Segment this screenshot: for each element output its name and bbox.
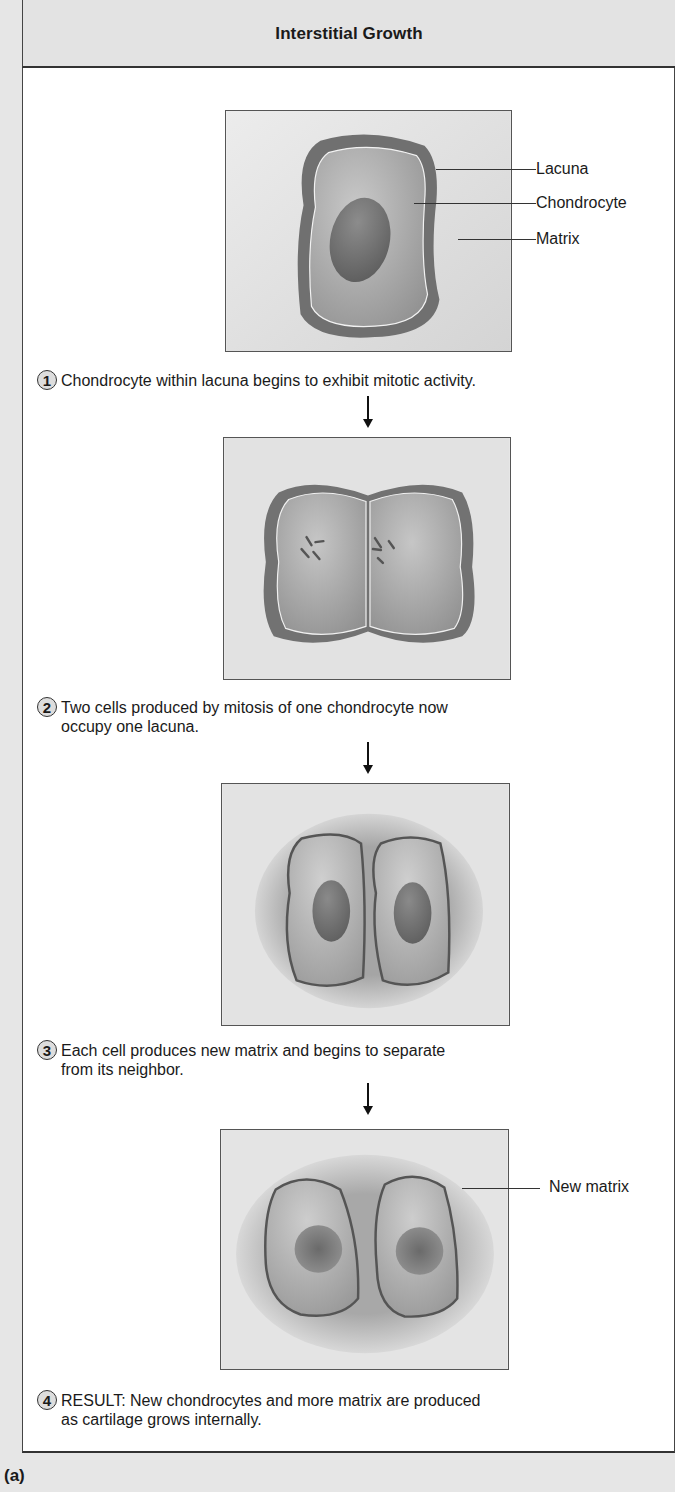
label-lacuna: Lacuna [536, 160, 589, 178]
stage-3-illustration [221, 783, 510, 1026]
label-matrix: Matrix [536, 230, 580, 248]
down-arrow-icon [367, 742, 369, 772]
stage-4-text-line-2: as cartilage grows internally. [61, 1410, 262, 1429]
new-chondrocytes-drawing [221, 1130, 508, 1369]
stage-2-text-line-1: Two cells produced by mitosis of one cho… [61, 698, 448, 717]
stage-3-text-line-1: Each cell produces new matrix and begins… [61, 1041, 445, 1060]
stage-1-text: Chondrocyte within lacuna begins to exhi… [61, 371, 476, 390]
down-arrow-icon [367, 1083, 369, 1113]
stage-1-illustration [225, 110, 512, 352]
stage-2-illustration [223, 437, 511, 680]
stage-4-illustration [220, 1129, 509, 1370]
stage-4-text-line-1: RESULT: New chondrocytes and more matrix… [61, 1391, 480, 1410]
label-chondrocyte: Chondrocyte [536, 194, 627, 212]
new-matrix-leader-line [462, 1188, 540, 1189]
label-new-matrix: New matrix [549, 1178, 629, 1196]
lacuna-leader-line [436, 169, 536, 170]
matrix-leader-line [458, 239, 536, 240]
chondrocyte-leader-line [414, 203, 536, 204]
step-number-badge: 2 [37, 697, 57, 717]
single-chondrocyte-drawing [226, 111, 511, 351]
panel-label: (a) [4, 1466, 25, 1486]
stage-2-text-line-2: occupy one lacuna. [61, 717, 199, 736]
step-number-badge: 3 [37, 1040, 57, 1060]
step-number-badge: 1 [37, 370, 57, 390]
separating-chondrocytes-drawing [222, 784, 509, 1025]
down-arrow-icon [367, 396, 369, 426]
step-number-badge: 4 [37, 1390, 57, 1410]
stage-3-text-line-2: from its neighbor. [61, 1060, 184, 1079]
figure-header: Interstitial Growth [22, 0, 675, 68]
figure-title: Interstitial Growth [23, 24, 675, 44]
dividing-chondrocyte-drawing [224, 438, 510, 679]
